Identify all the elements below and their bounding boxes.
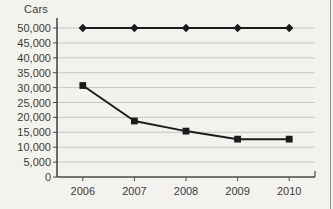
data-point-marker xyxy=(183,128,190,135)
data-point-marker xyxy=(79,82,86,89)
data-point-marker xyxy=(285,24,293,32)
data-point-marker xyxy=(131,118,138,125)
data-point-marker xyxy=(233,24,241,32)
data-point-marker xyxy=(234,136,241,143)
data-point-marker xyxy=(79,24,87,32)
data-point-marker xyxy=(286,136,293,143)
line-chart: Cars 50,00045,00040,00035,00030,00025,00… xyxy=(0,0,333,209)
page-edge-rule xyxy=(330,0,331,209)
axis-ticks xyxy=(53,28,289,181)
data-point-marker xyxy=(130,24,138,32)
data-point-marker xyxy=(182,24,190,32)
data-series xyxy=(79,82,292,142)
plot-area xyxy=(0,0,333,209)
data-series xyxy=(79,24,294,32)
data-series-layer xyxy=(79,24,294,143)
axis-lines xyxy=(57,18,315,177)
